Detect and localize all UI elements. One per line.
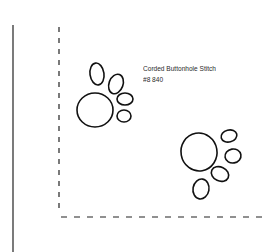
embroidery-pattern — [0, 0, 269, 252]
paw-print-upper — [77, 62, 133, 127]
paw-toe-pad — [191, 178, 210, 200]
paw-toe-pad — [106, 72, 126, 96]
paw-main-pad — [77, 93, 113, 127]
thread-number-label: #8 840 — [143, 75, 163, 85]
stitch-name-label: Corded Buttonhole Stitch — [143, 64, 216, 74]
paw-toe-pad — [117, 110, 131, 122]
paw-print-lower — [178, 128, 242, 200]
paw-toe-pad — [117, 93, 133, 105]
paw-toe-pad — [209, 164, 231, 184]
paw-toe-pad — [220, 128, 239, 144]
paw-toe-pad — [89, 62, 106, 86]
paw-toe-pad — [224, 148, 242, 165]
